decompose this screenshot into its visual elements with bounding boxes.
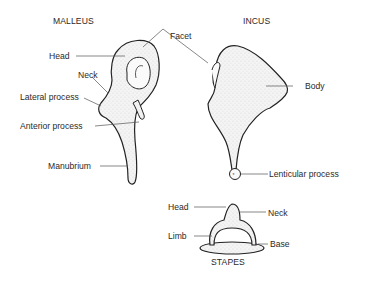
incus-title: INCUS — [243, 17, 270, 26]
malleus-bone — [99, 40, 159, 184]
stapes-head-label: Head — [168, 203, 189, 212]
malleus-neck-label: Neck — [78, 71, 98, 80]
manubrium-label: Manubrium — [48, 162, 91, 171]
incus-bone: * — [208, 46, 288, 180]
stapes-base-label: Base — [270, 240, 290, 249]
svg-text:*: * — [233, 172, 235, 178]
stapes-neck-label: Neck — [268, 209, 288, 218]
stapes-bone — [200, 204, 264, 254]
lateral-process-label: Lateral process — [20, 93, 79, 102]
stapes-limb-label: Limb — [168, 232, 187, 241]
lenticular-process-label: Lenticular process — [269, 170, 339, 179]
malleus-title: MALLEUS — [53, 17, 94, 26]
malleus-head-label: Head — [49, 52, 70, 61]
ossicles-diagram: * — [0, 0, 377, 281]
facet-label: Facet — [170, 32, 192, 41]
anterior-process-label: Anterior process — [20, 122, 83, 131]
incus-body-label: Body — [305, 82, 325, 91]
stapes-title: STAPES — [211, 258, 245, 267]
